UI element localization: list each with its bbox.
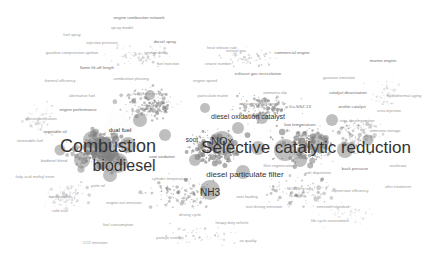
node-layer: [21, 44, 401, 246]
network-visualization-canvas[interactable]: engine combustion networkspray modelfuel…: [0, 0, 441, 271]
network-graph-svg[interactable]: [0, 0, 441, 271]
